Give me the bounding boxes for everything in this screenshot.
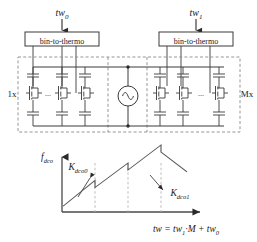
cell-left-2: [55, 67, 71, 126]
annotation-arrow-kdco0: [78, 178, 90, 197]
cell-left-1: [26, 67, 42, 126]
chart-y-axis-label-sub: dco: [44, 157, 54, 164]
figure-root: ... ... 1x Mx bin-to-thermo bin-to-therm…: [0, 0, 257, 242]
bank-label-mx: Mx: [241, 89, 254, 99]
decoder-left-outputs: [33, 46, 76, 86]
ellipsis-right-bank: ...: [198, 89, 204, 98]
chart-x-axis-label-p1: tw = tw: [153, 224, 183, 234]
chart-y-axis-label: fdco: [41, 152, 54, 164]
cell-right-2: [176, 67, 192, 126]
annotation-label-kdco1-sub: dco1: [177, 193, 190, 200]
figure-canvas: ... ... 1x Mx bin-to-thermo bin-to-therm…: [0, 0, 257, 242]
annotation-label-kdco0: Kdco0: [68, 162, 89, 174]
ac-source-symbol: [118, 65, 138, 127]
cell-right-3: [212, 67, 228, 126]
ellipsis-left-bank: ...: [45, 89, 51, 98]
input-label-tw0-sub: 0: [65, 13, 69, 21]
decoder-right-outputs: [167, 46, 210, 86]
input-label-tw0: tw0: [56, 7, 69, 21]
chart-sawtooth-curve: [63, 145, 187, 206]
chart-group: Kdco0 Kdco1 fdco tw = tw1·M + tw0: [41, 145, 220, 236]
node-dot-bottom: [126, 124, 129, 127]
input-label-tw1: tw1: [190, 7, 203, 21]
input-label-tw0-base: tw: [56, 7, 66, 18]
annotation-label-kdco1: Kdco1: [170, 188, 190, 200]
chart-x-axis-label-p2: ·M + tw: [185, 224, 216, 234]
input-label-tw1-base: tw: [190, 7, 200, 18]
bin-to-thermo-label-left: bin-to-thermo: [40, 37, 84, 46]
chart-x-axis-label-sub2: 0: [216, 229, 220, 236]
bin-to-thermo-label-right: bin-to-thermo: [174, 37, 218, 46]
bank-label-1x: 1x: [8, 89, 18, 99]
annotation-label-kdco0-sub: dco0: [75, 167, 88, 174]
node-dot-top: [126, 65, 129, 68]
chart-x-axis-label: tw = tw1·M + tw0: [153, 224, 220, 236]
cell-left-3: [78, 67, 94, 126]
input-label-tw1-sub: 1: [199, 13, 203, 21]
